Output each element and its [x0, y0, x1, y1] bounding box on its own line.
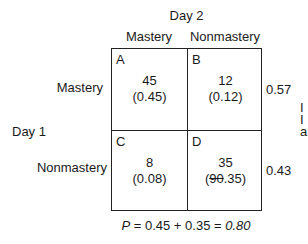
row-total-mastery: 0.57 [266, 82, 291, 97]
contingency-table: A 45 (0.45) B 12 (0.12) C 8 (0.08) D 35 … [111, 48, 262, 211]
column-label-nonmastery: Nonmastery [187, 29, 263, 44]
cell-proportion: (0.08) [112, 171, 187, 187]
cell-proportion: (90.35) [188, 171, 263, 187]
cell-b: B 12 (0.12) [188, 49, 263, 130]
column-header: Day 2 [111, 8, 262, 23]
cell-a: A 45 (0.45) [112, 49, 187, 130]
row-header: Day 1 [12, 124, 46, 139]
column-label-mastery: Mastery [111, 29, 187, 44]
cell-letter: A [116, 52, 125, 67]
cell-d: D 35 (90.35) [188, 131, 263, 212]
row-label-mastery: Mastery [57, 80, 103, 95]
row-total-nonmastery: 0.43 [266, 163, 291, 178]
struck-digits: 90 [209, 171, 223, 186]
agreement-formula: P = 0.45 + 0.35 = 0.80 [96, 218, 276, 233]
cell-proportion: (0.45) [112, 89, 187, 105]
cell-proportion: (0.12) [188, 89, 263, 105]
cell-count: 45 [112, 73, 187, 89]
cell-count: 12 [188, 73, 263, 89]
cell-letter: C [116, 134, 125, 149]
cell-count: 8 [112, 155, 187, 171]
edge-text: a [300, 124, 308, 139]
cell-count: 35 [188, 155, 263, 171]
row-label-nonmastery: Nonmastery [37, 160, 107, 175]
cell-letter: D [192, 134, 201, 149]
cell-c: C 8 (0.08) [112, 131, 187, 212]
cell-letter: B [192, 52, 201, 67]
